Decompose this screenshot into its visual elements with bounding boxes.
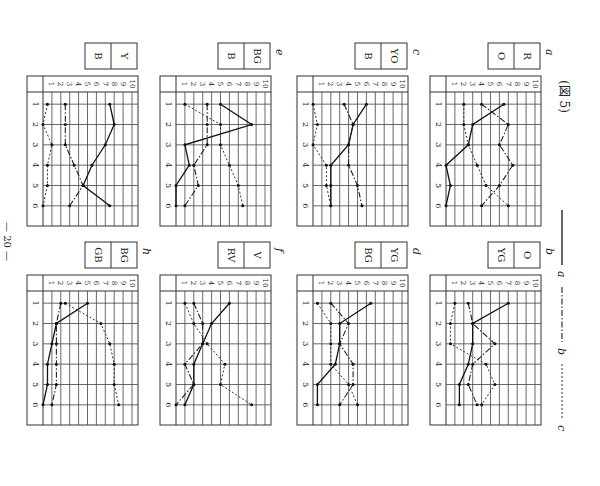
x-tick-label: 6	[434, 203, 443, 208]
chart-frame	[430, 275, 541, 425]
y-tick-label: 5	[486, 82, 494, 86]
data-point	[183, 363, 186, 366]
data-point	[183, 302, 186, 305]
data-point	[113, 363, 116, 366]
data-point	[467, 363, 470, 366]
legend-label: c	[555, 425, 568, 431]
data-point	[42, 204, 45, 207]
y-tick-label: 10	[261, 80, 269, 89]
y-tick-label: 8	[243, 281, 251, 285]
data-point	[188, 164, 191, 167]
y-tick-label: 2	[56, 281, 64, 285]
data-point	[449, 184, 452, 187]
x-tick-label: 1	[434, 301, 443, 306]
legend: abc	[555, 210, 568, 431]
y-tick-label: 2	[189, 82, 197, 86]
chart-frame	[297, 76, 408, 226]
data-point	[329, 302, 332, 305]
data-point	[55, 363, 58, 366]
data-point	[46, 103, 49, 106]
color-label: R	[522, 52, 533, 60]
data-point	[369, 302, 372, 305]
y-tick-label: 4	[477, 281, 485, 286]
x-tick-label: 5	[301, 183, 310, 188]
series-line-c	[43, 104, 52, 206]
panel-letter: h	[140, 248, 153, 255]
panel-letter: e	[273, 49, 286, 56]
y-tick-label: 10	[531, 279, 539, 288]
data-point	[223, 363, 226, 366]
y-tick-label: 3	[65, 82, 73, 86]
y-tick-label: 1	[317, 82, 325, 86]
data-point	[241, 204, 244, 207]
y-tick-label: 5	[486, 281, 494, 285]
data-point	[201, 342, 204, 345]
y-tick-label: 1	[47, 281, 55, 285]
y-tick-label: 4	[477, 82, 485, 87]
y-tick-label: 1	[317, 281, 325, 285]
x-tick-label: 5	[31, 183, 40, 188]
y-tick-label: 7	[234, 82, 242, 86]
y-tick-label: 10	[128, 80, 136, 89]
data-point	[347, 383, 350, 386]
color-label: GB	[93, 247, 104, 262]
x-tick-label: 4	[31, 362, 40, 367]
y-tick-label: 5	[83, 82, 91, 86]
data-point	[347, 322, 350, 325]
data-point	[458, 403, 461, 406]
y-tick-label: 3	[468, 82, 476, 86]
page-number: — 20 —	[2, 222, 13, 261]
data-point	[329, 322, 332, 325]
panel-letter: c	[410, 49, 423, 55]
legend-label: a	[555, 271, 568, 278]
x-tick-label: 1	[301, 301, 310, 306]
x-tick-label: 5	[301, 382, 310, 387]
y-tick-label: 6	[495, 82, 503, 87]
data-point	[117, 403, 120, 406]
y-tick-label: 8	[243, 82, 251, 86]
chart-frame	[297, 275, 408, 425]
y-tick-label: 9	[522, 281, 530, 285]
x-tick-label: 3	[301, 142, 310, 147]
data-point	[462, 123, 465, 126]
color-label: O	[522, 251, 533, 259]
series-line-c	[65, 303, 118, 405]
data-point	[82, 184, 85, 187]
data-point	[329, 164, 332, 167]
y-tick-label: 3	[65, 281, 73, 285]
data-point	[108, 204, 111, 207]
x-tick-label: 4	[434, 362, 443, 367]
data-point	[338, 403, 341, 406]
data-point	[352, 123, 355, 126]
x-tick-label: 3	[164, 341, 173, 346]
data-point	[471, 342, 474, 345]
y-tick-label: 8	[380, 82, 388, 86]
data-point	[192, 302, 195, 305]
data-point	[192, 383, 195, 386]
data-point	[329, 204, 332, 207]
y-tick-label: 7	[504, 281, 512, 285]
x-tick-label: 4	[164, 362, 173, 367]
data-point	[338, 342, 341, 345]
color-label: BG	[363, 247, 374, 263]
data-point	[467, 383, 470, 386]
data-point	[476, 403, 479, 406]
y-tick-label: 8	[380, 281, 388, 285]
data-point	[312, 103, 315, 106]
data-point	[219, 383, 222, 386]
y-tick-label: 7	[371, 281, 379, 285]
y-tick-label: 4	[74, 281, 82, 286]
data-point	[64, 302, 67, 305]
data-point	[471, 322, 474, 325]
y-tick-label: 2	[189, 281, 197, 285]
data-point	[50, 403, 53, 406]
y-tick-label: 2	[459, 82, 467, 86]
color-label: YO	[389, 48, 400, 64]
data-point	[507, 302, 510, 305]
y-tick-label: 7	[371, 82, 379, 86]
y-tick-label: 9	[252, 281, 260, 285]
panel-letter: d	[410, 248, 423, 255]
data-point	[480, 103, 483, 106]
data-point	[55, 322, 58, 325]
x-tick-label: 4	[31, 163, 40, 168]
